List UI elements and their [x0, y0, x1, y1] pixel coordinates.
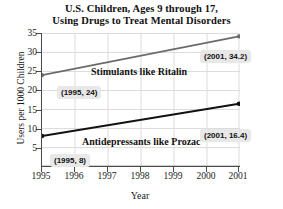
y-tick-label-35: 35 [17, 28, 37, 38]
series-annotation-antidepressants: Antidepressants like Prozac [82, 136, 201, 147]
callout-antidepressants-2001: (2001, 16.4) [200, 129, 251, 142]
callout-antidepressants-1995: (1995, 8) [50, 154, 90, 167]
chart-figure: U.S. Children, Ages 9 through 17, Using … [0, 0, 283, 209]
series-point-stimulants-2001 [237, 34, 240, 38]
callout-stimulants-2001: (2001, 34.2) [200, 50, 251, 63]
series-annotation-stimulants: Stimulants like Ritalin [91, 66, 187, 77]
chart-title-line-2: Using Drugs to Treat Mental Disorders [0, 15, 283, 27]
x-axis-label: Year [40, 190, 240, 201]
callout-stimulants-1995: (1995, 24) [57, 86, 101, 99]
y-tick-label-20: 20 [17, 85, 37, 95]
x-tick-label-2001: 2001 [218, 171, 258, 181]
y-tick-label-10: 10 [17, 124, 37, 134]
series-point-antidepressants-1995 [42, 134, 44, 139]
y-tick-label-15: 15 [17, 105, 37, 115]
y-tick-label-25: 25 [17, 66, 37, 76]
chart-title-line-1: U.S. Children, Ages 9 through 17, [0, 3, 283, 15]
y-tick-label-30: 30 [17, 47, 37, 57]
series-point-stimulants-1995 [42, 73, 44, 77]
chart-title: U.S. Children, Ages 9 through 17, Using … [0, 3, 283, 27]
series-point-antidepressants-2001 [237, 102, 240, 107]
y-tick-label-5: 5 [17, 143, 37, 153]
